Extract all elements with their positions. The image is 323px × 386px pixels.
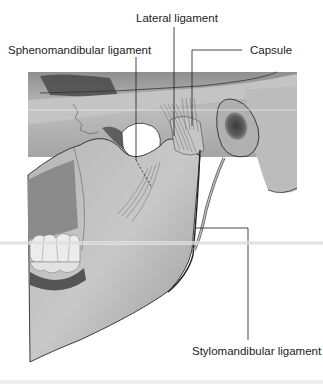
label-sphenomandibular-ligament: Sphenomandibular ligament [8,44,151,57]
label-stylomandibular-ligament: Stylomandibular ligament [192,345,321,358]
scan-artifact [0,380,323,384]
label-capsule: Capsule [250,44,292,57]
scan-artifact [0,241,323,245]
tmj-illustration [0,0,323,386]
label-lateral-ligament: Lateral ligament [136,12,218,25]
